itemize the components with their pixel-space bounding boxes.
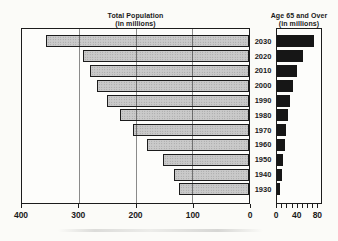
right-bar-row [277,64,321,79]
age65-bar [277,80,293,92]
axis-minor-tick [307,204,308,208]
population-aging-figure: Total Population (in millions) Age 65 an… [0,0,338,241]
right-bar-row [277,167,321,182]
year-label: 1950 [255,155,272,164]
axis-minor-tick [292,204,293,208]
year-label: 2020 [255,52,272,61]
right-chart-title: Age 65 and Over (in millions) [261,12,337,27]
axis-minor-tick [281,204,282,208]
year-row: 1960 [250,138,276,153]
year-label: 2030 [255,37,272,46]
year-row: 1950 [250,152,276,167]
year-label: 2000 [255,81,272,90]
year-row: 2020 [250,49,276,64]
right-bar-row [277,152,321,167]
right-chart-title-line2: (in millions) [261,20,337,28]
year-row: 1940 [250,167,276,182]
axis-minor-tick [297,204,298,208]
right-bar-row [277,49,321,64]
axis-tick [78,204,79,208]
year-row: 2030 [250,34,276,49]
right-bar-row [277,108,321,123]
age65-bar [277,154,283,166]
right-bar-row [277,93,321,108]
axis-tick-label: 40 [292,210,301,220]
year-label: 1940 [255,170,272,179]
scan-artifact [58,229,263,232]
age65-bar [277,50,303,62]
left-chart-title-line2: (in millions) [21,20,250,28]
axis-minor-tick [286,204,287,208]
right-bar-row [277,138,321,153]
axis-tick-label: 300 [71,210,85,220]
gridline [136,29,137,203]
year-label: 2010 [255,66,272,75]
axis-tick [250,204,251,208]
axis-minor-tick [312,204,313,208]
left-axis-ticks [21,204,250,209]
age65-bar [277,139,285,151]
axis-minor-tick [276,204,277,208]
axis-tick-label: 0 [274,210,279,220]
age65-bar [277,109,288,121]
age65-bars [277,29,321,203]
axis-tick-label: 80 [313,210,322,220]
gridline [79,29,80,203]
year-row: 2010 [250,64,276,79]
axis-tick-label: 100 [186,210,200,220]
year-label: 1970 [255,126,272,135]
right-bar-row [277,123,321,138]
axis-tick [136,204,137,208]
age65-bar [277,65,297,77]
left-chart-title: Total Population (in millions) [21,12,250,27]
year-label: 1960 [255,140,272,149]
right-bar-row [277,182,321,197]
right-chart-title-line1: Age 65 and Over [261,12,337,20]
year-label: 1980 [255,111,272,120]
year-label: 1990 [255,96,272,105]
axis-tick-label: 400 [14,210,28,220]
left-axis-labels: 4003002001000 [21,210,250,221]
year-row: 1980 [250,108,276,123]
axis-minor-tick [317,204,318,208]
age65-plot [276,28,322,204]
right-axis-labels: 04080 [276,210,321,221]
year-label: 1930 [255,185,272,194]
gridline [192,29,193,203]
year-row: 1990 [250,93,276,108]
right-bar-row [277,34,321,49]
axis-tick-label: 0 [248,210,253,220]
year-row: 1970 [250,123,276,138]
total-population-plot [21,28,250,204]
age65-bar [277,183,280,195]
age65-bar [277,124,286,136]
right-axis-ticks [276,204,321,209]
axis-tick [193,204,194,208]
age65-bar [277,35,314,47]
right-bar-row [277,78,321,93]
left-chart-title-line1: Total Population [21,12,250,20]
year-row: 2000 [250,78,276,93]
axis-tick [21,204,22,208]
year-row: 1930 [250,182,276,197]
age65-bar [277,169,282,181]
year-axis: 2030202020102000199019801970196019501940… [250,28,276,204]
axis-minor-tick [302,204,303,208]
axis-tick-label: 200 [128,210,142,220]
left-plot-gridlines [22,29,249,203]
age65-bar [277,95,290,107]
